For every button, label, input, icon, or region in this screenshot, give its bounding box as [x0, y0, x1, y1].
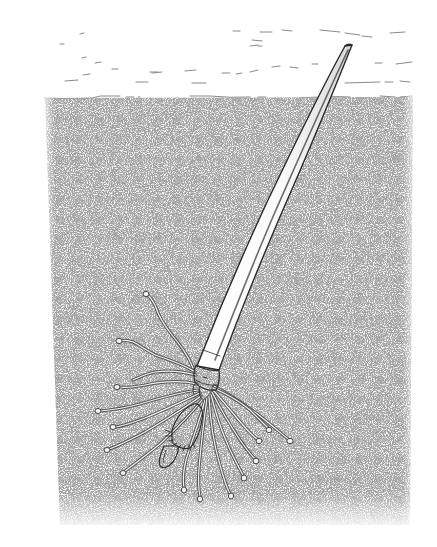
illustration-canvas [0, 0, 437, 547]
worm-tube-illustration [0, 0, 437, 547]
water-surface-dashes [60, 30, 412, 83]
